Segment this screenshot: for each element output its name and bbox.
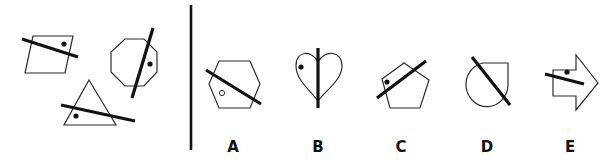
example-octagon xyxy=(111,28,157,98)
teardrop-shape xyxy=(466,63,508,107)
filled-dot xyxy=(298,64,303,69)
option-label-e: E xyxy=(565,138,575,156)
filled-dot xyxy=(564,69,569,74)
option-b[interactable]: B xyxy=(296,48,342,156)
filled-dot xyxy=(384,79,389,84)
option-label-c: C xyxy=(395,138,406,156)
example-parallelogram xyxy=(22,36,78,73)
crossing-line xyxy=(377,61,426,98)
option-e[interactable]: E xyxy=(545,55,598,156)
filled-dot xyxy=(147,61,152,66)
option-label-b: B xyxy=(312,138,323,156)
triangle-shape xyxy=(64,80,116,125)
crossing-line xyxy=(206,70,261,104)
crossing-line xyxy=(545,74,584,84)
filled-dot xyxy=(73,113,78,118)
crossing-line xyxy=(472,57,510,105)
filled-dot xyxy=(61,41,66,46)
hollow-dot xyxy=(219,90,224,95)
option-label-a: A xyxy=(227,138,239,156)
option-label-d: D xyxy=(481,138,493,156)
hexagon-shape xyxy=(209,61,260,108)
puzzle-canvas: A B C D E xyxy=(0,0,615,164)
option-d[interactable]: D xyxy=(466,57,510,156)
example-triangle xyxy=(61,80,135,125)
crossing-line xyxy=(61,105,135,121)
option-a[interactable]: A xyxy=(206,61,261,156)
pentagon-shape xyxy=(382,63,429,108)
option-c[interactable]: C xyxy=(377,61,429,156)
